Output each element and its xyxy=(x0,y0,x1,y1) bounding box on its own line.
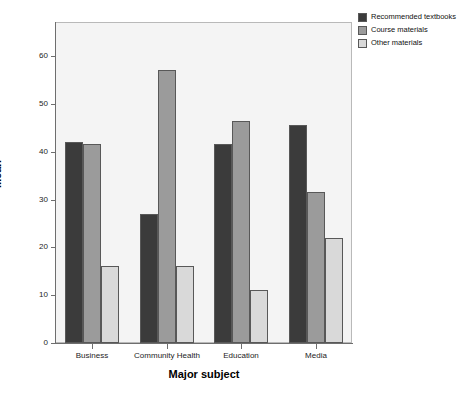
bar xyxy=(140,214,158,343)
legend-item: Course materials xyxy=(358,25,470,35)
bar xyxy=(250,290,268,343)
y-tick-mark xyxy=(51,56,55,57)
bar xyxy=(65,142,83,343)
bar xyxy=(101,266,119,343)
x-axis-title: Major subject xyxy=(55,368,353,380)
y-tick-60: 60 xyxy=(0,56,55,57)
y-axis-line xyxy=(55,22,56,344)
y-tick-mark xyxy=(51,295,55,296)
legend-swatch-icon xyxy=(358,26,367,35)
legend-swatch-icon xyxy=(358,13,367,22)
y-tick-label: 20 xyxy=(39,241,48,252)
x-tick-label: Community Health xyxy=(134,351,200,360)
legend-label: Course materials xyxy=(371,25,428,35)
bar xyxy=(289,125,307,343)
y-tick-10: 10 xyxy=(0,295,55,296)
y-tick-label: 30 xyxy=(39,194,48,205)
bar xyxy=(176,266,194,343)
y-tick-mark xyxy=(51,104,55,105)
y-tick-30: 30 xyxy=(0,200,55,201)
bar xyxy=(325,238,343,343)
bar xyxy=(158,70,176,343)
bar xyxy=(307,192,325,343)
legend-item: Recommended textbooks xyxy=(358,12,470,22)
y-tick-0: 0 xyxy=(0,343,55,344)
x-tick-mark xyxy=(316,344,317,349)
y-tick-label: 0 xyxy=(44,337,48,348)
x-tick-mark xyxy=(241,344,242,349)
x-tick-mark xyxy=(167,344,168,349)
bar xyxy=(83,144,101,343)
y-tick-mark xyxy=(51,343,55,344)
y-tick-50: 50 xyxy=(0,104,55,105)
x-tick-mark xyxy=(92,344,93,349)
y-tick-20: 20 xyxy=(0,247,55,248)
x-tick-label: Business xyxy=(76,351,108,360)
legend-swatch-icon xyxy=(358,39,367,48)
legend-label: Recommended textbooks xyxy=(371,12,456,22)
x-tick-label: Education xyxy=(223,351,259,360)
bar-chart: 0102030405060 BusinessCommunity HealthEd… xyxy=(0,0,472,401)
y-tick-mark xyxy=(51,200,55,201)
legend-item: Other materials xyxy=(358,38,470,48)
y-tick-40: 40 xyxy=(0,152,55,153)
y-tick-label: 40 xyxy=(39,146,48,157)
legend: Recommended textbooksCourse materialsOth… xyxy=(358,12,470,51)
legend-label: Other materials xyxy=(371,38,422,48)
bar xyxy=(214,144,232,343)
x-tick-label: Media xyxy=(305,351,327,360)
y-tick-label: 60 xyxy=(39,50,48,61)
y-tick-label: 10 xyxy=(39,289,48,300)
y-tick-label: 50 xyxy=(39,98,48,109)
y-tick-mark xyxy=(51,247,55,248)
y-axis-title: Mean xyxy=(0,160,3,188)
y-tick-mark xyxy=(51,152,55,153)
x-axis-line xyxy=(55,343,353,344)
bar xyxy=(232,121,250,343)
